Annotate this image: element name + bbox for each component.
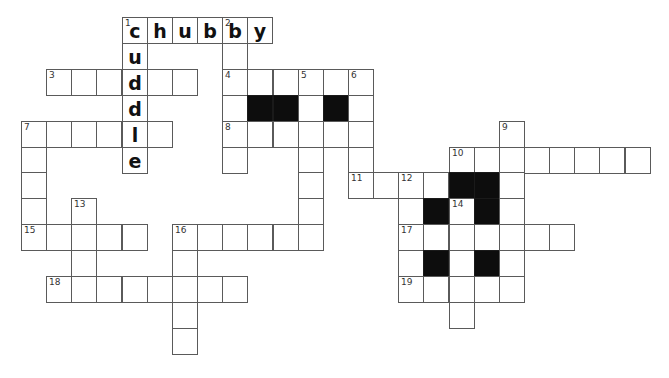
grid-cell[interactable] — [323, 121, 349, 148]
grid-cell[interactable]: 7 — [21, 121, 47, 148]
grid-cell[interactable]: 5 — [298, 69, 324, 96]
grid-cell[interactable] — [172, 302, 198, 329]
grid-cell[interactable] — [273, 224, 299, 251]
grid-cell[interactable] — [122, 276, 148, 303]
grid-cell[interactable] — [298, 198, 324, 225]
grid-cell[interactable] — [499, 172, 525, 199]
grid-cell[interactable] — [21, 198, 47, 225]
grid-cell[interactable] — [549, 224, 575, 251]
grid-cell[interactable] — [46, 224, 72, 251]
grid-cell[interactable] — [423, 276, 449, 303]
grid-cell[interactable] — [398, 250, 424, 277]
grid-cell[interactable] — [499, 224, 525, 251]
grid-cell[interactable] — [222, 43, 248, 70]
grid-cell[interactable] — [348, 95, 374, 122]
grid-cell[interactable] — [323, 69, 349, 96]
grid-cell[interactable] — [273, 69, 299, 96]
grid-cell[interactable] — [147, 69, 173, 96]
grid-cell[interactable]: e — [122, 147, 148, 174]
grid-cell[interactable] — [222, 95, 248, 122]
grid-cell[interactable] — [222, 224, 248, 251]
grid-cell[interactable] — [449, 302, 475, 329]
grid-cell[interactable] — [499, 250, 525, 277]
grid-cell[interactable] — [574, 147, 600, 174]
grid-cell[interactable]: 9 — [499, 121, 525, 148]
grid-cell[interactable]: 15 — [21, 224, 47, 251]
grid-cell[interactable]: 2b — [222, 17, 248, 44]
grid-cell[interactable] — [449, 250, 475, 277]
grid-cell[interactable] — [71, 69, 97, 96]
grid-cell[interactable] — [96, 224, 122, 251]
grid-cell[interactable] — [222, 147, 248, 174]
grid-cell[interactable] — [147, 121, 173, 148]
grid-cell[interactable] — [71, 224, 97, 251]
grid-cell[interactable] — [197, 276, 223, 303]
grid-cell[interactable] — [549, 147, 575, 174]
grid-cell[interactable]: 19 — [398, 276, 424, 303]
grid-cell[interactable] — [122, 224, 148, 251]
grid-cell[interactable]: y — [247, 17, 273, 44]
grid-cell[interactable]: u — [122, 43, 148, 70]
grid-cell[interactable] — [474, 224, 500, 251]
grid-cell[interactable] — [625, 147, 651, 174]
grid-cell[interactable] — [348, 121, 374, 148]
grid-cell[interactable] — [247, 69, 273, 96]
grid-cell[interactable]: d — [122, 95, 148, 122]
grid-cell[interactable] — [298, 121, 324, 148]
grid-cell[interactable] — [247, 224, 273, 251]
grid-cell[interactable] — [46, 121, 72, 148]
grid-cell[interactable] — [172, 69, 198, 96]
grid-cell[interactable] — [524, 147, 550, 174]
grid-cell[interactable] — [474, 276, 500, 303]
grid-cell[interactable]: 16 — [172, 224, 198, 251]
grid-cell[interactable]: 10 — [449, 147, 475, 174]
grid-cell[interactable] — [499, 198, 525, 225]
grid-cell[interactable] — [599, 147, 625, 174]
grid-cell[interactable] — [499, 147, 525, 174]
grid-cell[interactable]: 11 — [348, 172, 374, 199]
grid-cell[interactable] — [71, 121, 97, 148]
grid-cell[interactable] — [247, 121, 273, 148]
grid-cell[interactable]: h — [147, 17, 173, 44]
grid-cell[interactable] — [172, 328, 198, 355]
grid-cell[interactable]: 1c — [122, 17, 148, 44]
grid-cell[interactable] — [71, 276, 97, 303]
grid-cell[interactable]: d — [122, 69, 148, 96]
grid-cell[interactable]: u — [172, 17, 198, 44]
grid-cell[interactable] — [96, 276, 122, 303]
grid-cell[interactable] — [21, 172, 47, 199]
grid-cell[interactable] — [273, 121, 299, 148]
grid-cell[interactable] — [96, 121, 122, 148]
grid-cell[interactable] — [298, 147, 324, 174]
grid-cell[interactable]: b — [197, 17, 223, 44]
grid-cell[interactable] — [373, 172, 399, 199]
grid-cell[interactable] — [398, 198, 424, 225]
grid-cell[interactable] — [423, 172, 449, 199]
grid-cell[interactable] — [197, 224, 223, 251]
grid-cell[interactable] — [524, 224, 550, 251]
grid-cell[interactable]: 18 — [46, 276, 72, 303]
grid-cell[interactable]: 14 — [449, 198, 475, 225]
grid-cell[interactable]: 4 — [222, 69, 248, 96]
grid-cell[interactable] — [222, 276, 248, 303]
grid-cell[interactable]: 3 — [46, 69, 72, 96]
grid-cell[interactable]: l — [122, 121, 148, 148]
grid-cell[interactable] — [172, 250, 198, 277]
grid-cell[interactable] — [348, 147, 374, 174]
grid-cell[interactable] — [71, 250, 97, 277]
grid-cell[interactable] — [298, 95, 324, 122]
grid-cell[interactable] — [449, 276, 475, 303]
grid-cell[interactable] — [423, 224, 449, 251]
grid-cell[interactable]: 13 — [71, 198, 97, 225]
grid-cell[interactable]: 12 — [398, 172, 424, 199]
grid-cell[interactable] — [21, 147, 47, 174]
grid-cell[interactable] — [147, 276, 173, 303]
grid-cell[interactable] — [449, 224, 475, 251]
grid-cell[interactable] — [298, 172, 324, 199]
grid-cell[interactable]: 17 — [398, 224, 424, 251]
grid-cell[interactable] — [298, 224, 324, 251]
grid-cell[interactable] — [474, 147, 500, 174]
grid-cell[interactable] — [172, 276, 198, 303]
grid-cell[interactable] — [96, 69, 122, 96]
grid-cell[interactable] — [499, 276, 525, 303]
